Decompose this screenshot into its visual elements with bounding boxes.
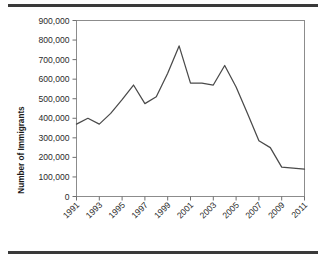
x-tick-label: 1991 [61,200,82,221]
bottom-divider-rule [8,251,318,254]
plot-frame [77,21,305,197]
y-tick-label: 500,000 [38,94,69,104]
x-tick-label: 1999 [152,200,173,221]
chart-area: Number of Immigrants 0100,000200,000300,… [0,10,326,248]
top-divider-rule [8,4,318,7]
y-tick-label: 300,000 [38,133,69,143]
y-tick-label: 200,000 [38,152,69,162]
y-tick-label: 800,000 [38,35,69,45]
x-tick-label: 2009 [266,200,287,221]
x-tick-label: 1993 [84,200,105,221]
x-tick-label: 2005 [220,200,241,221]
figure-container: Number of Immigrants 0100,000200,000300,… [0,0,326,259]
y-tick-label: 900,000 [38,16,69,26]
y-tick-label: 700,000 [38,55,69,65]
x-axis-ticks: 1991199319951997199920012003200520072009… [61,197,310,221]
y-tick-label: 400,000 [38,113,69,123]
x-tick-label: 1995 [106,200,127,221]
x-tick-label: 2007 [243,200,264,221]
y-axis-title-text: Number of Immigrants [17,106,26,194]
x-tick-label: 2003 [198,200,219,221]
y-axis-ticks: 0100,000200,000300,000400,000500,000600,… [38,16,76,202]
y-tick-label: 600,000 [38,74,69,84]
x-tick-label: 1997 [129,200,150,221]
line-chart: Number of Immigrants 0100,000200,000300,… [0,10,326,248]
x-tick-label: 2011 [289,200,309,220]
y-tick-label: 100,000 [38,172,69,182]
x-tick-label: 2001 [175,200,196,221]
y-axis-title: Number of Immigrants [17,106,26,194]
y-tick-label: 0 [65,192,70,202]
